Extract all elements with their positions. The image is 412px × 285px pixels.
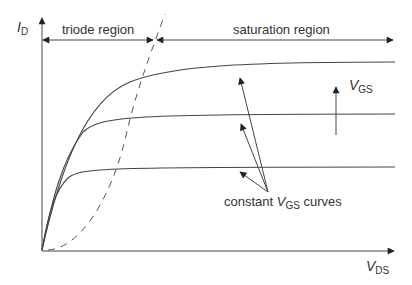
y-axis-label: ID [17, 19, 28, 37]
curve-high-vgs [42, 62, 395, 250]
x-axis-label: VDS [366, 258, 390, 276]
vgs-label: VGS [349, 77, 373, 95]
saturation-region-label: saturation region [233, 22, 330, 37]
iv-characteristics-diagram: ID VDS triode region saturation region V… [0, 0, 412, 285]
triode-region-label: triode region [62, 22, 134, 37]
curve-low-vgs [42, 167, 395, 250]
curve-mid-vgs [42, 114, 395, 250]
constant-vgs-curves-label: constant VGS curves [224, 194, 342, 211]
saturation-boundary-dashed [48, 14, 165, 250]
